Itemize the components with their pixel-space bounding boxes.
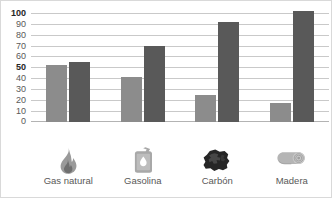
- y-axis: 100 90 80 70 60 50 40 30 20 10 0: [1, 8, 29, 141]
- bar-madera-serie-oscura: [293, 11, 314, 122]
- bar-gasolina-serie-clara: [121, 77, 142, 121]
- x-category-madera: Madera: [255, 142, 330, 197]
- x-category-carbon: Carbón: [180, 142, 255, 197]
- bar-group-carbon: [180, 8, 255, 141]
- y-tick-60: 60: [16, 52, 26, 61]
- y-tick-70: 70: [16, 41, 26, 50]
- bar-chart: 100 90 80 70 60 50 40 30 20 10 0: [0, 0, 332, 198]
- plot-area: [31, 8, 329, 141]
- bar-group-gas-natural: [31, 8, 106, 141]
- y-tick-100: 100: [11, 9, 26, 18]
- bars-layer: [31, 8, 329, 141]
- y-tick-40: 40: [16, 74, 26, 83]
- bar-group-madera: [255, 8, 330, 141]
- y-tick-30: 30: [16, 84, 26, 93]
- y-tick-80: 80: [16, 30, 26, 39]
- x-axis: Gas natural Gasolina Carbón: [31, 142, 329, 197]
- x-category-gasolina: Gasolina: [106, 142, 181, 197]
- bar-gas-natural-serie-clara: [46, 65, 67, 121]
- y-tick-90: 90: [16, 19, 26, 28]
- bar-group-gasolina: [106, 8, 181, 141]
- bar-gas-natural-serie-oscura: [69, 62, 90, 122]
- jerrycan-icon: [124, 144, 162, 175]
- y-tick-0: 0: [21, 117, 26, 126]
- coal-icon: [198, 144, 236, 175]
- bar-madera-serie-clara: [270, 103, 291, 121]
- log-icon: [273, 144, 311, 175]
- bar-carbon-serie-clara: [195, 95, 216, 121]
- x-label-gasolina: Gasolina: [124, 176, 162, 186]
- x-label-gas-natural: Gas natural: [44, 176, 93, 186]
- y-tick-20: 20: [16, 95, 26, 104]
- bar-carbon-serie-oscura: [218, 22, 239, 122]
- flame-icon: [49, 144, 87, 175]
- x-label-carbon: Carbón: [202, 176, 233, 186]
- bar-gasolina-serie-oscura: [144, 46, 165, 122]
- x-category-gas-natural: Gas natural: [31, 142, 106, 197]
- x-label-madera: Madera: [276, 176, 308, 186]
- y-tick-50: 50: [16, 63, 26, 72]
- y-tick-10: 10: [16, 106, 26, 115]
